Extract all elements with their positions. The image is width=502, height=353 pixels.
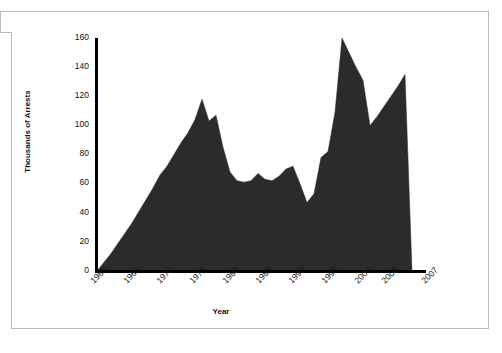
y-tick-label: 120 bbox=[63, 91, 89, 100]
y-tick-label: 0 bbox=[63, 266, 89, 275]
y-tick-label: 160 bbox=[63, 33, 89, 42]
area-series-arrests bbox=[97, 38, 412, 271]
x-axis-title: Year bbox=[161, 307, 281, 316]
y-tick-label: 20 bbox=[63, 237, 89, 246]
y-tick-label: 80 bbox=[63, 149, 89, 158]
y-axis-title: Thousands of Arrests bbox=[23, 77, 32, 187]
y-tick-label: 140 bbox=[63, 62, 89, 71]
arrests-area-chart: 160 140 120 100 80 60 40 20 0 1960 1965 … bbox=[11, 11, 489, 329]
y-tick-label: 100 bbox=[63, 120, 89, 129]
y-tick-label: 40 bbox=[63, 208, 89, 217]
chart-plot-svg bbox=[11, 11, 489, 329]
y-tick-label: 60 bbox=[63, 178, 89, 187]
